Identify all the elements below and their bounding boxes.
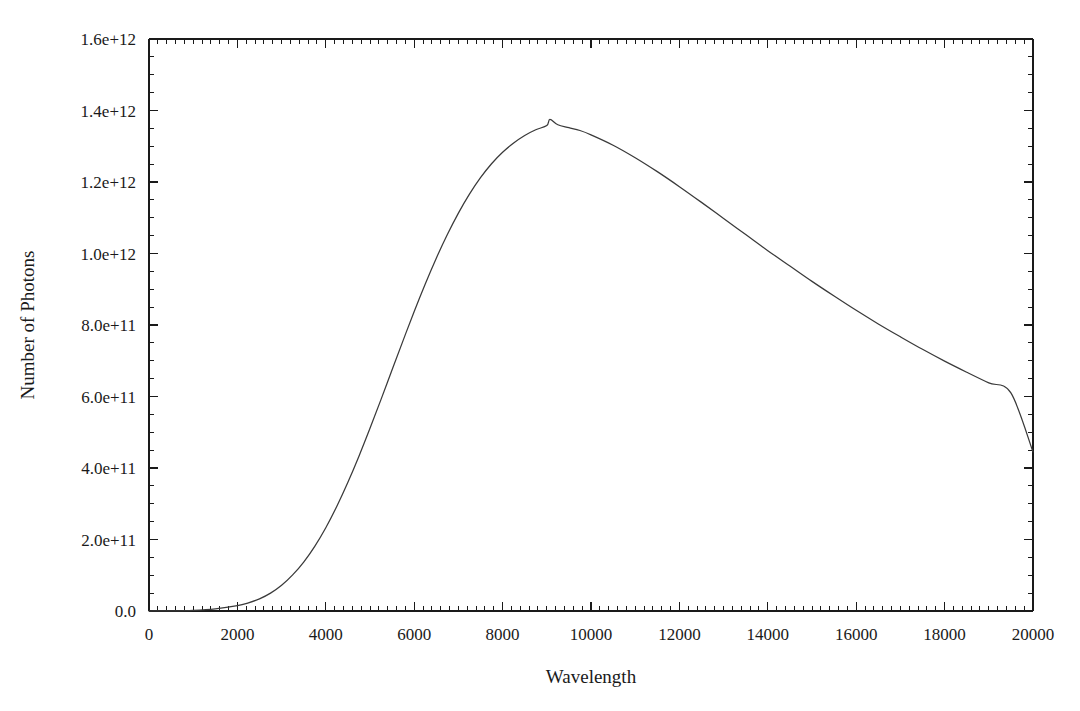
x-tick-label: 18000 [923,625,966,644]
y-tick-label: 1.2e+12 [81,173,136,192]
x-tick-label: 6000 [397,625,431,644]
y-tick-label: 1.0e+12 [81,245,136,264]
x-axis-title: Wavelength [546,666,637,687]
x-tick-label: 8000 [486,625,520,644]
x-tick-label: 12000 [658,625,701,644]
photon-spectrum-chart: 0.02.0e+114.0e+116.0e+118.0e+111.0e+121.… [0,0,1080,711]
plot-area-background [149,39,1033,611]
x-tick-label: 16000 [835,625,878,644]
x-tick-label: 2000 [220,625,254,644]
y-tick-label: 1.6e+12 [81,30,136,49]
y-axis-title: Number of Photons [17,251,38,400]
x-tick-label: 14000 [747,625,790,644]
y-tick-label: 1.4e+12 [81,102,136,121]
y-tick-label: 8.0e+11 [81,316,136,335]
x-tick-label: 0 [145,625,154,644]
x-tick-label: 20000 [1012,625,1055,644]
y-tick-label: 0.0 [115,602,136,621]
y-tick-label: 6.0e+11 [81,388,136,407]
x-tick-label: 10000 [570,625,613,644]
y-tick-label: 2.0e+11 [81,531,136,550]
y-tick-label: 4.0e+11 [81,459,136,478]
x-tick-label: 4000 [309,625,343,644]
y-axis-tick-labels: 0.02.0e+114.0e+116.0e+118.0e+111.0e+121.… [81,30,136,621]
